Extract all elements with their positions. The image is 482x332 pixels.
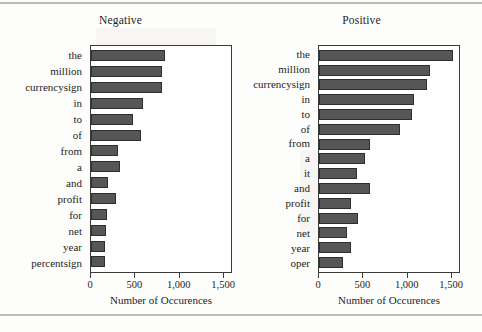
bar-row xyxy=(91,145,231,156)
bar-row xyxy=(91,130,231,141)
x-ticklabel-500: 500 xyxy=(127,279,143,290)
bar-row xyxy=(319,168,459,179)
category-label-of: of xyxy=(0,130,86,141)
bar-row xyxy=(91,50,231,61)
x-axis-title-positive: Number of Occurences xyxy=(318,294,460,306)
panel-title-negative: Negative xyxy=(0,14,241,26)
bar-of xyxy=(319,124,400,135)
bar-of xyxy=(91,130,141,141)
x-ticklabel-500: 500 xyxy=(355,279,371,290)
x-ticklabel-1500: 1,500 xyxy=(211,279,235,290)
x-axis-title-negative: Number of Occurences xyxy=(90,294,232,306)
category-label-percentsign: percentsign xyxy=(0,258,86,269)
bar-row xyxy=(91,98,231,109)
bar-row xyxy=(91,66,231,77)
bar-percentsign xyxy=(91,256,105,267)
bar-row xyxy=(91,241,231,252)
bar-row xyxy=(91,114,231,125)
bars-positive xyxy=(319,46,459,272)
bar-from xyxy=(91,145,118,156)
category-label-the: the xyxy=(241,49,314,60)
x-ticklabel-0: 0 xyxy=(315,279,320,290)
x-tick-1000 xyxy=(407,273,408,278)
bar-and xyxy=(91,177,108,188)
bar-year xyxy=(91,241,105,252)
category-label-in: in xyxy=(0,98,86,109)
bar-row xyxy=(91,209,231,220)
bar-row xyxy=(319,65,459,76)
x-tick-1000 xyxy=(179,273,180,278)
bar-for xyxy=(319,213,358,224)
bar-row xyxy=(319,109,459,120)
category-label-of: of xyxy=(241,124,314,135)
category-label-from: from xyxy=(0,146,86,157)
bar-profit xyxy=(319,198,351,209)
bar-it xyxy=(319,168,357,179)
category-label-year: year xyxy=(0,242,86,253)
category-label-from: from xyxy=(241,138,314,149)
figure-page: Negative themillioncurrencysignintooffro… xyxy=(0,0,482,332)
x-ticklabel-1000: 1,000 xyxy=(167,279,191,290)
category-label-a: a xyxy=(241,153,314,164)
bar-row xyxy=(319,94,459,105)
x-axis-ticks-positive xyxy=(318,273,460,278)
bar-in xyxy=(319,94,414,105)
bar-to xyxy=(91,114,133,125)
x-tick-0 xyxy=(318,273,319,278)
category-label-for: for xyxy=(0,210,86,221)
bar-net xyxy=(91,225,106,236)
bar-row xyxy=(91,225,231,236)
bar-row xyxy=(91,193,231,204)
bar-million xyxy=(91,66,162,77)
category-label-to: to xyxy=(241,109,314,120)
bar-row xyxy=(91,177,231,188)
x-tick-500 xyxy=(362,273,363,278)
x-ticklabel-1000: 1,000 xyxy=(395,279,419,290)
category-label-a: a xyxy=(0,162,86,173)
bar-row xyxy=(319,50,459,61)
bar-row xyxy=(319,79,459,90)
bars-negative xyxy=(91,46,231,272)
x-axis-ticks-negative xyxy=(90,273,232,278)
category-label-and: and xyxy=(0,178,86,189)
bar-the xyxy=(319,50,453,61)
category-axis-negative: themillioncurrencysignintooffromaandprof… xyxy=(0,45,86,273)
category-label-currencysign: currencysign xyxy=(0,82,86,93)
bar-a xyxy=(319,153,365,164)
page-rule-bottom xyxy=(0,314,482,316)
x-tick-500 xyxy=(134,273,135,278)
bar-row xyxy=(319,153,459,164)
bar-row xyxy=(319,257,459,268)
bar-row xyxy=(319,198,459,209)
bar-to xyxy=(319,109,412,120)
bar-oper xyxy=(319,257,343,268)
plot-area-positive xyxy=(318,45,460,273)
panel-positive: Positive themillioncurrencysignintooffro… xyxy=(241,0,482,312)
category-label-year: year xyxy=(241,243,314,254)
x-axis-ticklabels-negative: 05001,0001,500 xyxy=(90,279,232,292)
bar-for xyxy=(91,209,107,220)
category-label-currencysign: currencysign xyxy=(241,79,314,90)
bar-the xyxy=(91,50,165,61)
bar-row xyxy=(319,213,459,224)
bar-million xyxy=(319,65,430,76)
x-tick-0 xyxy=(90,273,91,278)
bar-row xyxy=(91,82,231,93)
category-label-in: in xyxy=(241,94,314,105)
category-label-for: for xyxy=(241,213,314,224)
plot-area-negative xyxy=(90,45,232,273)
bar-year xyxy=(319,242,351,253)
bar-row xyxy=(319,139,459,150)
category-label-profit: profit xyxy=(0,194,86,205)
x-ticklabel-1500: 1,500 xyxy=(439,279,463,290)
x-tick-1500 xyxy=(451,273,452,278)
chart-panels: Negative themillioncurrencysignintooffro… xyxy=(0,0,482,312)
bar-from xyxy=(319,139,370,150)
category-label-profit: profit xyxy=(241,198,314,209)
bar-net xyxy=(319,227,347,238)
category-label-million: million xyxy=(241,64,314,75)
category-label-the: the xyxy=(0,50,86,61)
bar-row xyxy=(319,227,459,238)
category-label-it: it xyxy=(241,168,314,179)
bar-currencysign xyxy=(319,79,427,90)
